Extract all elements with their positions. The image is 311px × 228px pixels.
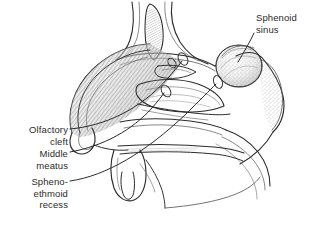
nasopharynx: [216, 130, 270, 199]
label-spheno-ethmoid-recess: Spheno- ethmoid recess: [6, 176, 68, 211]
label-sphenoid-sinus: Sphenoid sinus: [256, 12, 308, 35]
label-middle-meatus: Middle meatus: [6, 148, 68, 171]
sphenoid-sinus-cavity: [216, 45, 262, 87]
anatomy-figure: Olfactory cleft Middle meatus Spheno- et…: [0, 0, 311, 228]
soft-palate: [111, 150, 165, 208]
hard-palate: [118, 145, 244, 161]
oral-cavity-floor: [165, 177, 260, 208]
label-olfactory-cleft: Olfactory cleft: [6, 124, 68, 147]
